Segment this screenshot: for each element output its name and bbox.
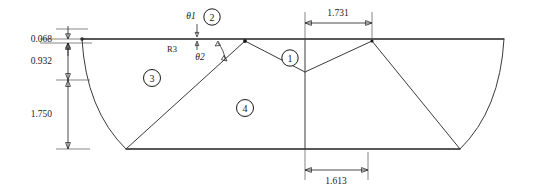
technical-drawing-svg: 0.068 0.932 1.750 1.731 xyxy=(0,0,549,195)
region-balloon-1[interactable]: 1 xyxy=(282,50,298,66)
vertex-dot-upper-left-peak xyxy=(243,39,247,43)
balloon-label-4: 4 xyxy=(243,103,248,114)
dim-label-1750: 1.750 xyxy=(31,109,53,119)
panel-divider-diagonal-right xyxy=(372,41,460,149)
angle-label-theta1: θ1 xyxy=(186,11,195,21)
top-dimension-group: 1.731 xyxy=(305,8,372,40)
balloon-label-3: 3 xyxy=(150,73,155,84)
left-leading-edge-arc xyxy=(82,39,126,149)
dim-label-0068: 0.068 xyxy=(31,34,53,44)
bottom-dimension-group: 1.613 xyxy=(305,149,368,186)
region-balloon-3[interactable]: 3 xyxy=(144,70,161,87)
region-balloon-4[interactable]: 4 xyxy=(237,100,254,117)
panel-divider-v-right xyxy=(305,41,372,72)
angle-label-theta2: θ2 xyxy=(195,52,205,62)
panel-divider-diagonal-left xyxy=(126,41,245,149)
right-trailing-edge-arc xyxy=(460,39,504,149)
dim-label-0932: 0.932 xyxy=(31,56,53,66)
technical-drawing-canvas: 0.068 0.932 1.750 1.731 xyxy=(0,0,549,195)
region-balloon-2[interactable]: 2 xyxy=(204,9,220,25)
arrowhead-theta2-start xyxy=(215,41,220,46)
balloon-label-1: 1 xyxy=(288,53,293,64)
radius-label-r3: R3 xyxy=(167,44,177,54)
dim-label-1613: 1.613 xyxy=(325,176,347,186)
dim-label-1731: 1.731 xyxy=(327,8,349,18)
balloon-label-2: 2 xyxy=(210,12,215,23)
